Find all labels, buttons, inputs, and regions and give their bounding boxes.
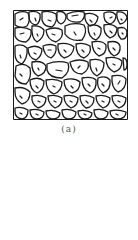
figure-caption: (a) <box>0 124 138 134</box>
